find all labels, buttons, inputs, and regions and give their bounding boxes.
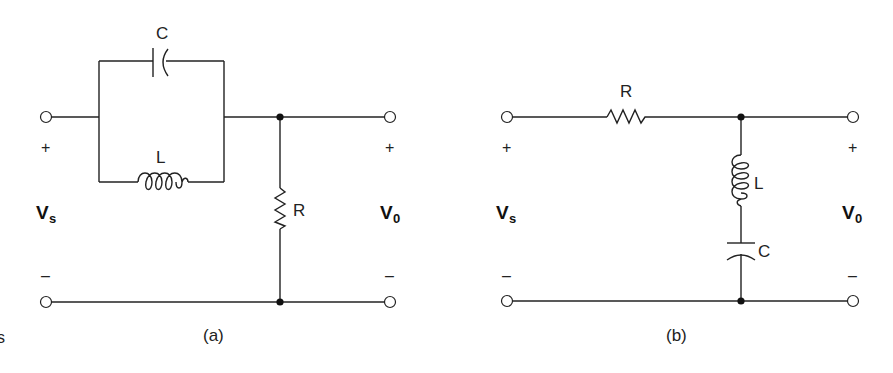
input-minus-sign: – xyxy=(41,267,50,284)
input-plus-sign: + xyxy=(41,139,50,156)
output-voltage-label: V 0 xyxy=(842,202,862,226)
circuit-b: R L C + – + – V s V 0 (b) xyxy=(496,82,862,345)
svg-text:V: V xyxy=(842,202,855,223)
junction-node xyxy=(737,297,744,304)
input-terminal-minus xyxy=(502,296,513,307)
output-minus-sign: – xyxy=(385,267,394,284)
input-terminal-plus xyxy=(41,112,52,123)
input-plus-sign: + xyxy=(502,139,511,156)
input-voltage-label: V s xyxy=(36,202,56,226)
svg-text:0: 0 xyxy=(393,211,400,226)
input-terminal-minus xyxy=(41,297,52,308)
junction-node xyxy=(276,298,283,305)
resistor-r-a xyxy=(275,188,285,229)
resistor-r-b xyxy=(607,110,647,123)
svg-text:V: V xyxy=(496,202,509,223)
output-minus-sign: – xyxy=(848,267,857,284)
svg-text:0: 0 xyxy=(855,211,862,226)
output-terminal-minus xyxy=(848,296,859,307)
output-terminal-plus xyxy=(385,112,396,123)
inductor-l-a xyxy=(138,173,188,190)
output-terminal-plus xyxy=(848,112,859,123)
inductor-label: L xyxy=(156,148,165,167)
output-voltage-label: V 0 xyxy=(380,202,400,226)
svg-text:V: V xyxy=(36,202,49,223)
caption-b: (b) xyxy=(666,326,687,345)
inductor-label: L xyxy=(754,174,763,193)
svg-text:s: s xyxy=(49,211,56,226)
junction-node xyxy=(276,113,283,120)
circuit-a: C L R + – + – V s V 0 (a) xyxy=(36,24,400,345)
svg-text:s: s xyxy=(509,211,516,226)
capacitor-label: C xyxy=(156,24,168,43)
output-terminal-minus xyxy=(385,297,396,308)
capacitor-c-a xyxy=(153,48,168,77)
input-voltage-label: V s xyxy=(496,202,516,226)
inductor-l-b xyxy=(732,155,749,206)
input-terminal-plus xyxy=(502,112,513,123)
svg-text:V: V xyxy=(380,202,393,223)
stray-mark: s xyxy=(0,329,5,346)
output-plus-sign: + xyxy=(848,139,857,156)
resistor-label: R xyxy=(620,82,632,101)
input-minus-sign: – xyxy=(502,267,511,284)
caption-a: (a) xyxy=(203,326,224,345)
output-plus-sign: + xyxy=(385,139,394,156)
resistor-label: R xyxy=(293,201,305,220)
junction-node xyxy=(737,113,744,120)
circuit-diagram: C L R + – + – V s V 0 (a) s xyxy=(0,0,893,373)
capacitor-label: C xyxy=(758,242,770,261)
